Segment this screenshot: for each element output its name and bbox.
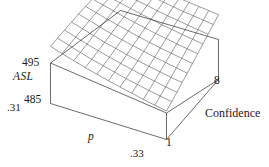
mesh-line-constant-confidence [86, 6, 193, 63]
surface-mesh [51, 0, 219, 111]
y-axis-max-tick-label: 8 [214, 75, 220, 87]
y-axis-title: Confidence [205, 107, 260, 119]
surface-plot-canvas [0, 0, 269, 167]
mesh-line-constant-confidence [72, 22, 183, 83]
surface-plot-figure: 495 ASL 485 .31 p .33 8 1 Confidence [0, 0, 269, 167]
mesh-line-constant-p [62, 0, 130, 54]
mesh-line-constant-confidence [100, 0, 203, 44]
mesh-line-constant-p [51, 0, 121, 46]
floor-edge-front-left [51, 104, 167, 140]
x-axis-min-tick-label: .31 [7, 102, 21, 113]
top-edge-back-right [121, 11, 219, 40]
x-axis-max-tick-label: .33 [130, 148, 144, 159]
mesh-line-constant-confidence [79, 14, 188, 73]
mesh-line-constant-confidence [114, 0, 214, 24]
z-axis-title: ASL [13, 71, 33, 83]
plot-bounding-box [51, 11, 219, 140]
x-axis-title: p [88, 131, 94, 143]
z-axis-min-tick-label: 485 [24, 94, 41, 106]
floor-diagonal-left [51, 63, 167, 113]
y-axis-min-tick-label: 1 [166, 137, 172, 149]
z-axis-max-tick-label: 495 [22, 57, 39, 69]
